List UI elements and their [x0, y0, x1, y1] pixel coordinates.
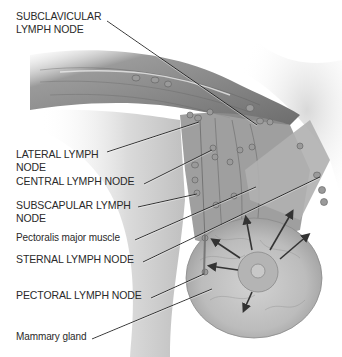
- nipple: [251, 264, 265, 278]
- label-sternal: STERNAL LYMPH NODE: [16, 253, 134, 266]
- label-central: CENTRAL LYMPH NODE: [16, 175, 134, 188]
- label-subscapular: SUBSCAPULAR LYMPH NODE: [16, 199, 131, 224]
- label-pectoral: PECTORAL LYMPH NODE: [16, 289, 142, 302]
- label-subclavicular: SUBCLAVICULAR LYMPH NODE: [16, 10, 101, 35]
- label-mammary-gland: Mammary gland: [16, 331, 86, 344]
- label-lateral: LATERAL LYMPH NODE: [16, 148, 99, 173]
- label-pectoralis-major: Pectoralis major muscle: [16, 232, 120, 245]
